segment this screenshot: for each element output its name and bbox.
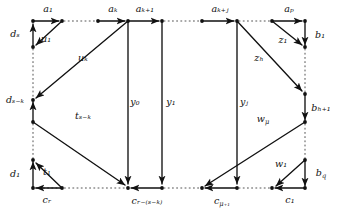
label-u-k: uₖ (78, 53, 88, 63)
vertex-dot (31, 120, 35, 124)
vertex-dot (303, 186, 307, 190)
label-b-h1: bₕ₊₁ (311, 103, 330, 113)
label-y-1: y₁ (166, 97, 175, 107)
vertex-dot (31, 186, 35, 190)
label-z-1: z₁ (278, 35, 287, 45)
vertex-dot (303, 158, 307, 162)
label-d-sk: dₛ₋ₖ (6, 95, 24, 105)
label-z-h: zₕ (254, 53, 263, 63)
vertex-dot (270, 19, 274, 23)
label-a-1: a₁ (43, 4, 53, 14)
figure-root: a₁ aₖ aₖ₊₁ aₖ₊ⱼ aₚ b₁ bₕ₊₁ bq cᵣ cᵣ₋₍ₛ₋ₖ… (0, 0, 337, 211)
vertex-dot (235, 186, 239, 190)
vertex-dot (270, 186, 274, 190)
edge-wmu (205, 122, 305, 186)
label-y-0: y₀ (130, 97, 139, 107)
vertex-dot (31, 45, 35, 49)
vertex-dot (200, 19, 204, 23)
vertex-dot (200, 186, 204, 190)
vertex-dot (303, 45, 307, 49)
vertex-dot (31, 19, 35, 23)
label-d-1: d₁ (10, 169, 20, 179)
label-b-1: b₁ (315, 30, 325, 40)
label-u-1: u₁ (41, 34, 51, 44)
label-c-rsk: cᵣ₋₍ₛ₋ₖ₎ (132, 196, 163, 206)
label-t-sk: tₛ₋ₖ (75, 111, 91, 121)
label-b-q: bq (316, 168, 327, 178)
vertex-dot (31, 158, 35, 162)
label-d-s: dₛ (10, 29, 19, 39)
vertex-dot (31, 98, 35, 102)
label-a-k1: aₖ₊₁ (136, 4, 154, 14)
vertex-dot (126, 186, 130, 190)
label-c-r: cᵣ (43, 195, 52, 205)
vertex-dot (235, 19, 239, 23)
vertex-dot (160, 19, 164, 23)
label-t-1: t₁ (43, 167, 51, 177)
label-y-j: yⱼ (240, 97, 248, 107)
edge-zh (237, 21, 302, 91)
vertex-dot (303, 19, 307, 23)
label-c-mu1: cμ₊₁ (214, 196, 230, 206)
vertex-dot (60, 186, 64, 190)
vertex-dot (303, 120, 307, 124)
label-c-1: c₁ (285, 195, 294, 205)
vertex-dot (160, 186, 164, 190)
vertex-dot (303, 92, 307, 96)
label-w-1: w₁ (275, 159, 287, 169)
vertex-dot (60, 19, 64, 23)
label-a-p: aₚ (284, 4, 294, 14)
vertex-dot (126, 19, 130, 23)
label-a-k: aₖ (108, 4, 117, 14)
label-w-mu: wμ (257, 114, 270, 124)
label-a-kj: aₖ₊ⱼ (211, 4, 228, 14)
vertex-dot (96, 19, 100, 23)
